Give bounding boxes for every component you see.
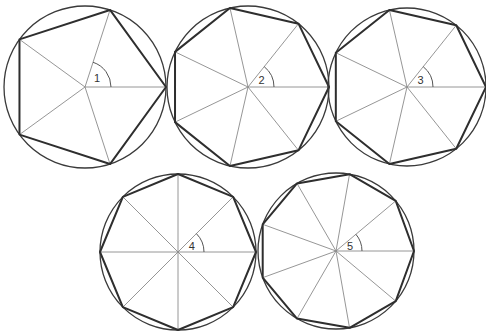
radius-line: [263, 224, 336, 251]
radius-line: [230, 8, 248, 87]
radius-line: [336, 251, 350, 328]
radius-line: [389, 10, 407, 87]
radius-line: [178, 197, 233, 252]
radius-line: [407, 87, 456, 149]
angle-label: 1: [94, 72, 100, 84]
angle-label: 4: [189, 240, 195, 252]
radius-line: [297, 251, 336, 319]
radius-line: [123, 252, 178, 307]
inscribed-polygon-2: 2: [167, 6, 329, 168]
inscribed-polygon-4: 4: [100, 174, 256, 330]
angle-label: 2: [258, 74, 264, 86]
radius-line: [178, 252, 233, 307]
radius-line: [248, 87, 299, 150]
central-angle-arc: [423, 67, 433, 87]
radius-line: [336, 251, 396, 301]
inscribed-polygon-3: 3: [328, 8, 486, 166]
radius-line: [85, 87, 110, 164]
central-angle-arc: [356, 234, 362, 251]
radius-line: [389, 87, 407, 164]
radius-line: [336, 53, 407, 87]
radius-line: [175, 87, 248, 122]
central-angle-arc: [196, 234, 204, 252]
inscribed-polygon-1: 1: [4, 6, 166, 168]
radius-line: [19, 39, 85, 87]
angle-label: 5: [347, 240, 353, 252]
radius-line: [336, 201, 396, 251]
radius-line: [19, 87, 85, 135]
radius-line: [248, 24, 299, 87]
radius-line: [297, 183, 336, 251]
angle-label: 3: [417, 74, 423, 86]
radius-line: [263, 251, 336, 278]
radius-line: [336, 87, 407, 121]
central-angle-arc: [264, 67, 274, 87]
polygon-diagram: 12345: [0, 0, 486, 332]
radius-line: [123, 197, 178, 252]
radius-line: [230, 87, 248, 166]
inscribed-polygon-5: 5: [258, 173, 414, 329]
radius-line: [175, 52, 248, 87]
